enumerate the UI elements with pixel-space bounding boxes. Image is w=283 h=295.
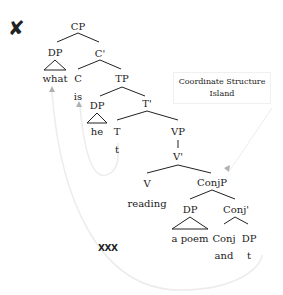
word-is: is	[74, 91, 82, 102]
node-c: C	[74, 73, 82, 84]
island-annotation-box: Coordinate Structure Island	[173, 72, 271, 104]
node-conj: Conj	[212, 233, 235, 244]
island-label-line2: Island	[174, 88, 270, 100]
node-t: T	[114, 126, 121, 137]
trace-t: t	[115, 144, 119, 155]
ungrammatical-mark-icon: ✘	[8, 18, 25, 38]
node-dp-apoem: DP	[183, 204, 198, 215]
node-tp: TP	[115, 73, 128, 84]
node-dp-what: DP	[48, 47, 63, 58]
node-c-bar: C'	[95, 48, 105, 59]
trace-dp-t: t	[247, 250, 251, 261]
island-pointer	[230, 108, 272, 170]
node-t-bar: T'	[142, 98, 151, 109]
node-dp-he: DP	[90, 100, 105, 111]
node-cp: CP	[71, 21, 85, 32]
arrowhead-icon	[49, 86, 55, 92]
word-what: what	[43, 73, 68, 84]
node-vp: VP	[171, 126, 185, 137]
node-conj-bar: Conj'	[223, 204, 249, 215]
node-v-bar: V'	[173, 151, 183, 162]
word-reading: reading	[127, 198, 166, 209]
movement-arrow-is	[80, 107, 118, 175]
word-a-poem: a poem	[172, 233, 209, 244]
node-conjp: ConjP	[197, 177, 227, 188]
node-v: V	[143, 178, 150, 189]
word-and: and	[215, 250, 234, 261]
tree-lines	[0, 0, 283, 295]
arrowhead-icon	[224, 165, 230, 172]
node-dp-trace: DP	[242, 233, 257, 244]
word-he: he	[91, 126, 103, 137]
island-label-line1: Coordinate Structure	[174, 76, 270, 88]
crossed-out-label: XXX	[98, 243, 117, 253]
